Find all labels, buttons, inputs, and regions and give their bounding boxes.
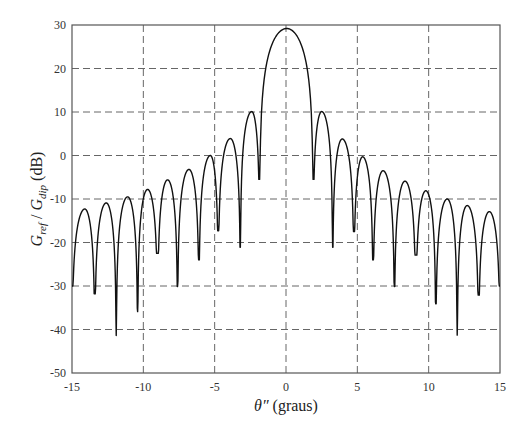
y-tick-label: -10 [50,192,66,206]
x-axis-ticks: -15-10-5051015 [64,380,506,394]
y-tick-label: -20 [50,236,66,250]
x-tick-label: 10 [423,380,435,394]
grid-lines [72,25,500,373]
x-axis-title: θ″ (graus) [254,397,318,415]
x-tick-label: 5 [354,380,360,394]
x-tick-label: -15 [64,380,80,394]
x-tick-label: 0 [283,380,289,394]
x-tick-label: -5 [210,380,220,394]
y-tick-label: -30 [50,279,66,293]
x-tick-label: -10 [135,380,151,394]
y-tick-label: -40 [50,323,66,337]
y-tick-label: 0 [60,149,66,163]
y-axis-title: Gref / Gdip (dB) [28,152,48,247]
y-tick-label: 10 [54,105,66,119]
chart: -15-10-5051015 -50-40-30-20-100102030 θ″… [0,0,530,440]
y-axis-ticks: -50-40-30-20-100102030 [50,18,66,380]
y-tick-label: 30 [54,18,66,32]
x-tick-label: 15 [494,380,506,394]
y-tick-label: -50 [50,366,66,380]
y-tick-label: 20 [54,62,66,76]
